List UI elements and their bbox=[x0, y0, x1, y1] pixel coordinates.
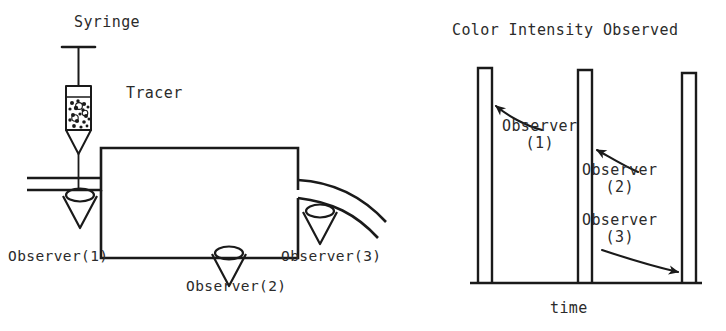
intensity-plot-panel: Color Intensity Observed Observer (1) Ob… bbox=[430, 0, 726, 331]
intensity-bar-1 bbox=[478, 68, 492, 283]
tracer-experiment-figure: Syringe Tracer Observer(1) Observer(2) O… bbox=[0, 0, 726, 331]
intensity-plot-drawing bbox=[430, 0, 726, 331]
annotation-observer-1: Observer (1) bbox=[502, 118, 577, 153]
observer-icon-1 bbox=[63, 189, 97, 229]
annotation-observer-1-line1: Observer bbox=[502, 117, 577, 135]
x-axis-label: time bbox=[550, 300, 588, 317]
channel-bed-profile bbox=[27, 148, 298, 190]
apparatus-panel: Syringe Tracer Observer(1) Observer(2) O… bbox=[0, 0, 430, 331]
plot-title: Color Intensity Observed bbox=[452, 22, 678, 39]
syringe-label: Syringe bbox=[74, 14, 140, 31]
annotation-observer-2-line2: (2) bbox=[606, 178, 634, 196]
observer-1-label: Observer(1) bbox=[8, 248, 108, 265]
channel-sump-wall bbox=[101, 190, 298, 258]
annotation-observer-3-line2: (3) bbox=[606, 228, 634, 246]
annotation-observer-3: Observer (3) bbox=[582, 212, 657, 247]
syringe-cone-tip bbox=[66, 130, 91, 154]
arrow-to-bar-3 bbox=[602, 250, 678, 272]
annotation-observer-2-line1: Observer bbox=[582, 161, 657, 179]
observer-2-label: Observer(2) bbox=[186, 278, 286, 295]
tracer-label: Tracer bbox=[126, 85, 183, 102]
annotation-observer-3-line1: Observer bbox=[582, 211, 657, 229]
observer-icon-3 bbox=[303, 205, 337, 245]
observer-3-label: Observer(3) bbox=[281, 248, 381, 265]
intensity-bar-3 bbox=[682, 73, 696, 283]
annotation-observer-1-line2: (1) bbox=[526, 134, 554, 152]
annotation-observer-2: Observer (2) bbox=[582, 162, 657, 197]
